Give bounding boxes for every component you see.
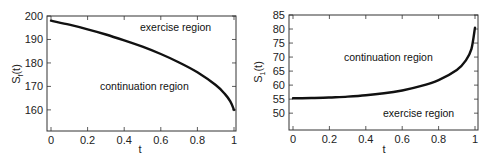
x-tick-label: 0 <box>48 134 54 146</box>
x-tick-label: 0.4 <box>358 133 373 145</box>
x-tick-label: 0.6 <box>153 134 168 146</box>
right-y-ticks: 5055606570758085 <box>273 9 478 119</box>
left-continuation-region-label: continuation region <box>100 80 189 92</box>
right-x-axis-label: t <box>382 143 385 155</box>
x-tick-label: 0.8 <box>190 134 205 146</box>
y-tick-label: 85 <box>273 9 285 21</box>
x-tick-label: 1 <box>472 133 478 145</box>
y-tick-label: 75 <box>273 37 285 49</box>
left-chart: 160170180190200 00.20.40.60.81 exercise … <box>10 10 237 155</box>
x-tick-label: 0 <box>290 133 296 145</box>
left-x-axis-label: t <box>138 143 141 155</box>
right-exercise-region-label: exercise region <box>383 107 454 119</box>
right-continuation-region-label: continuation region <box>344 51 433 63</box>
y-tick-label: 55 <box>273 93 285 105</box>
y-tick-label: 65 <box>273 65 285 77</box>
y-tick-label: 170 <box>25 80 43 92</box>
x-tick-label: 0.2 <box>322 133 337 145</box>
left-y-axis-label: Sf(t) <box>10 64 24 84</box>
x-tick-label: 1 <box>231 134 237 146</box>
left-boundary-curve <box>51 21 234 110</box>
y-tick-label: 200 <box>25 10 43 22</box>
y-tick-label: 60 <box>273 79 285 91</box>
charts-figure: 160170180190200 00.20.40.60.81 exercise … <box>0 0 496 157</box>
y-tick-label: 70 <box>273 51 285 63</box>
y-tick-label: 160 <box>25 104 43 116</box>
right-x-ticks: 00.20.40.60.81 <box>290 15 478 145</box>
y-tick-label: 190 <box>25 33 43 45</box>
y-tick-label: 80 <box>273 23 285 35</box>
right-y-axis-label: S1(t) <box>252 61 266 83</box>
x-tick-label: 0.2 <box>80 134 95 146</box>
x-tick-label: 0.8 <box>431 133 446 145</box>
right-chart: 5055606570758085 00.20.40.60.81 continua… <box>252 9 478 155</box>
y-tick-label: 180 <box>25 57 43 69</box>
x-tick-label: 0.4 <box>117 134 132 146</box>
y-tick-label: 50 <box>273 107 285 119</box>
x-tick-label: 0.6 <box>395 133 410 145</box>
left-plot-frame <box>47 16 236 131</box>
left-exercise-region-label: exercise region <box>140 21 211 33</box>
